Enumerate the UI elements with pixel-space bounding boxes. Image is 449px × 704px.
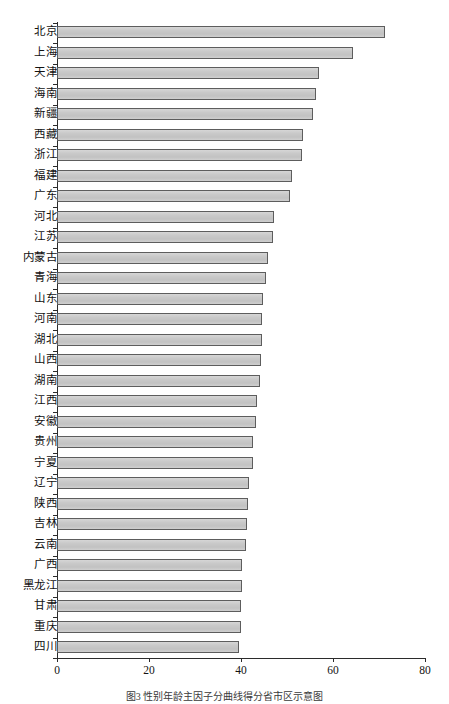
x-tick-mark <box>57 658 58 662</box>
y-tick-label-2: 天津 <box>5 66 57 79</box>
bar-row <box>57 248 425 269</box>
y-tick-label-3: 海南 <box>5 87 57 100</box>
y-tick-label-29: 重庆 <box>5 620 57 633</box>
bar-row <box>57 207 425 228</box>
bar-row <box>57 330 425 351</box>
bar <box>57 416 256 428</box>
y-axis-tick-labels: 北京上海天津海南新疆西藏浙江福建广东河北江苏内蒙古青海山东河南湖北山西湖南江西安… <box>0 22 57 658</box>
bar-row <box>57 617 425 638</box>
y-tick-label-20: 贵州 <box>5 435 57 448</box>
bar-row <box>57 186 425 207</box>
bar <box>57 354 261 366</box>
y-tick-label-13: 山东 <box>5 292 57 305</box>
bar <box>57 395 257 407</box>
bar <box>57 170 292 182</box>
plot-area <box>57 22 425 658</box>
y-tick-label-22: 辽宁 <box>5 476 57 489</box>
y-tick-label-16: 山西 <box>5 353 57 366</box>
bar <box>57 334 262 346</box>
bar <box>57 252 268 264</box>
bar <box>57 149 302 161</box>
x-tick-label-4: 80 <box>405 664 445 676</box>
bar-row <box>57 576 425 597</box>
y-tick-label-17: 湖南 <box>5 374 57 387</box>
bar-row <box>57 494 425 515</box>
bar <box>57 580 242 592</box>
y-tick-label-5: 西藏 <box>5 128 57 141</box>
y-tick-label-28: 甘肃 <box>5 599 57 612</box>
bar-row <box>57 453 425 474</box>
y-tick-label-18: 江西 <box>5 394 57 407</box>
x-tick-mark <box>333 658 334 662</box>
bar-row <box>57 104 425 125</box>
y-tick-label-15: 湖北 <box>5 333 57 346</box>
bar <box>57 313 262 325</box>
bar-row <box>57 84 425 105</box>
x-tick-label-1: 20 <box>129 664 169 676</box>
bar-row <box>57 43 425 64</box>
bar <box>57 436 253 448</box>
y-tick-label-21: 宁夏 <box>5 456 57 469</box>
x-tick-mark <box>425 658 426 662</box>
bar <box>57 518 247 530</box>
y-tick-label-0: 北京 <box>5 25 57 38</box>
bar-row <box>57 432 425 453</box>
y-tick-label-10: 江苏 <box>5 230 57 243</box>
bar <box>57 272 266 284</box>
bar <box>57 539 246 551</box>
y-tick-label-25: 云南 <box>5 538 57 551</box>
bar-row <box>57 145 425 166</box>
bar <box>57 88 316 100</box>
bar <box>57 67 319 79</box>
bar-row <box>57 350 425 371</box>
bar-row <box>57 412 425 433</box>
bar-row <box>57 473 425 494</box>
x-tick-mark <box>149 658 150 662</box>
y-tick-label-19: 安徽 <box>5 415 57 428</box>
bar-row <box>57 637 425 658</box>
figure-caption: 图3 性别年龄主因子分曲线得分省市区示意图 <box>0 690 449 703</box>
bar <box>57 190 290 202</box>
bar-row <box>57 391 425 412</box>
bar <box>57 600 241 612</box>
bar <box>57 559 242 571</box>
bar-row <box>57 125 425 146</box>
bar-row <box>57 514 425 535</box>
bar-row <box>57 289 425 310</box>
bar-row <box>57 535 425 556</box>
bar-row <box>57 371 425 392</box>
y-tick-label-12: 青海 <box>5 271 57 284</box>
bar <box>57 108 313 120</box>
y-tick-label-9: 河北 <box>5 210 57 223</box>
y-tick-label-23: 陕西 <box>5 497 57 510</box>
bar <box>57 211 274 223</box>
x-tick-label-2: 40 <box>221 664 261 676</box>
bar-row <box>57 596 425 617</box>
bar-row <box>57 63 425 84</box>
bar <box>57 641 239 653</box>
y-tick-label-11: 内蒙古 <box>5 251 57 264</box>
y-tick-label-26: 广西 <box>5 558 57 571</box>
bar <box>57 26 385 38</box>
y-tick-label-24: 吉林 <box>5 517 57 530</box>
y-tick-label-8: 广东 <box>5 189 57 202</box>
bar-row <box>57 268 425 289</box>
bar-row <box>57 166 425 187</box>
bar <box>57 129 303 141</box>
bar <box>57 47 353 59</box>
y-tick-label-30: 四川 <box>5 640 57 653</box>
figure-container: 北京上海天津海南新疆西藏浙江福建广东河北江苏内蒙古青海山东河南湖北山西湖南江西安… <box>0 0 449 704</box>
bar <box>57 375 260 387</box>
bar-row <box>57 227 425 248</box>
bar <box>57 498 248 510</box>
x-tick-label-0: 0 <box>37 664 77 676</box>
bar <box>57 231 273 243</box>
bar-row <box>57 555 425 576</box>
x-tick-label-3: 60 <box>313 664 353 676</box>
y-tick-label-6: 浙江 <box>5 148 57 161</box>
bar <box>57 457 253 469</box>
bar-row <box>57 22 425 43</box>
bar <box>57 293 263 305</box>
bar-row <box>57 309 425 330</box>
x-tick-mark <box>241 658 242 662</box>
